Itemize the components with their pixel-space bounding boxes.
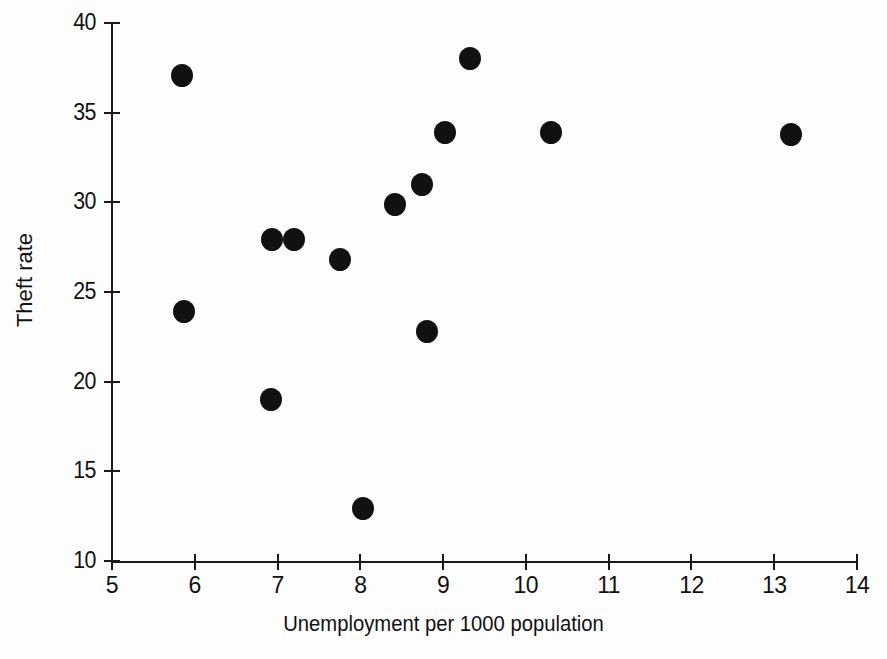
data-point [283,228,305,251]
data-point [411,173,433,196]
data-point [434,121,456,144]
data-point [261,228,283,251]
data-point [384,193,406,216]
data-point [459,47,481,70]
data-point [173,300,195,323]
data-point [352,497,374,520]
plot-data-area [0,0,887,659]
scatter-plot-figure: 10152025303540 567891011121314 Unemploym… [0,0,887,659]
data-point [780,123,802,146]
x-axis-title: Unemployment per 1000 population [35,612,851,636]
data-point [416,320,438,343]
data-point [171,64,193,87]
data-point [329,248,351,271]
y-axis-title: Theft rate [9,0,41,560]
data-point [260,388,282,411]
data-point [540,121,562,144]
